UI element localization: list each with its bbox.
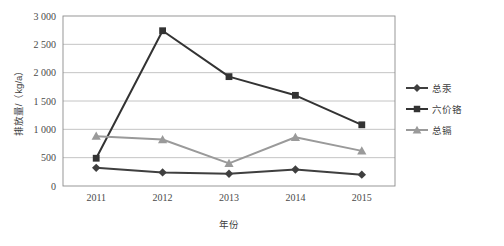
data-point-square bbox=[292, 92, 299, 99]
x-axis-tick-label: 2013 bbox=[219, 192, 239, 203]
y-axis-tick-label: 2 500 bbox=[34, 39, 57, 50]
chart-canvas: 05001 0001 5002 0002 5003 000 2011201220… bbox=[0, 0, 504, 246]
y-axis-tick-label: 1 500 bbox=[34, 96, 57, 107]
x-axis-tick-label: 2012 bbox=[153, 192, 173, 203]
y-axis-tick-label: 1 000 bbox=[34, 124, 57, 135]
y-axis-tick-label: 3 000 bbox=[34, 11, 57, 22]
legend-label: 总汞 bbox=[432, 83, 452, 94]
x-axis-tick-label: 2015 bbox=[352, 192, 372, 203]
data-point-square bbox=[226, 73, 233, 80]
y-axis-tick-label: 2 000 bbox=[34, 67, 57, 78]
data-point-square bbox=[414, 106, 420, 112]
data-point-square bbox=[159, 27, 166, 34]
legend-label: 六价铬 bbox=[432, 104, 462, 115]
x-axis-tick-label: 2014 bbox=[285, 192, 305, 203]
x-axis-title: 年份 bbox=[219, 219, 239, 230]
data-point-square bbox=[358, 121, 365, 128]
legend-label: 总镉 bbox=[432, 125, 452, 136]
y-axis-tick-label: 0 bbox=[51, 181, 56, 192]
data-point-square bbox=[93, 155, 100, 162]
y-axis-title: 排放量/（kg/a） bbox=[13, 66, 24, 137]
x-axis-tick-label: 2011 bbox=[86, 192, 106, 203]
chart-background bbox=[0, 0, 504, 246]
y-axis-tick-label: 500 bbox=[41, 152, 56, 163]
emission-trend-chart: 05001 0001 5002 0002 5003 000 2011201220… bbox=[0, 0, 504, 246]
